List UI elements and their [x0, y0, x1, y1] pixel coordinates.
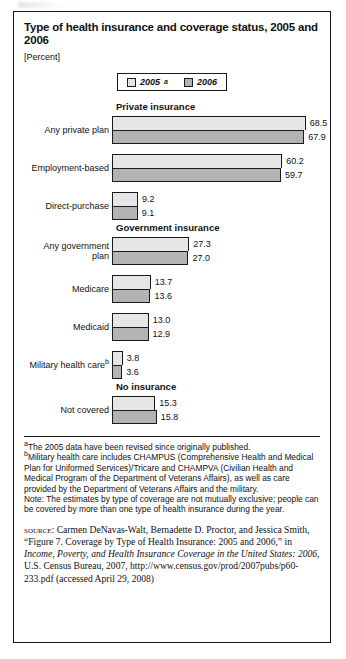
bar-pair: 68.567.9: [112, 116, 327, 144]
bar-pair: 13.012.9: [112, 313, 322, 341]
figure-title: Type of health insurance and coverage st…: [24, 21, 320, 47]
category-label-text: Any private plan: [44, 125, 109, 135]
category-label: Medicaid: [24, 322, 112, 333]
bar-2006: [112, 251, 188, 265]
bar-2005: [112, 116, 306, 130]
category-label-text: Employment-based: [31, 163, 109, 173]
legend-item-2005: 2005a: [127, 77, 168, 87]
bar-pair: 3.83.6: [112, 351, 322, 379]
bar-row: 15.8: [112, 410, 322, 424]
legend-swatch-light-icon: [127, 78, 136, 87]
bar-2006: [112, 327, 149, 341]
bar-2005: [112, 237, 189, 251]
general-note: Note: The estimates by type of coverage …: [24, 494, 320, 515]
bar-value-label: 3.8: [123, 353, 140, 363]
bar-value-label: 13.0: [149, 315, 171, 325]
bar-2006: [112, 206, 138, 220]
chart-section: Private insuranceAny private plan68.567.…: [24, 101, 322, 220]
legend-wrapper: 2005a 2006: [24, 73, 320, 91]
bar-2005: [112, 351, 123, 365]
bar-group: Employment-based60.259.7: [24, 154, 322, 182]
chart-legend: 2005a 2006: [117, 73, 227, 91]
bar-2006: [112, 410, 157, 424]
category-label: Any private plan: [24, 125, 112, 136]
bar-2005: [112, 192, 138, 206]
footnote-a: aThe 2005 data have been revised since o…: [24, 442, 320, 452]
legend-item-2006: 2006: [184, 77, 217, 87]
bar-pair: 27.327.0: [112, 237, 322, 265]
bar-2005: [112, 313, 149, 327]
bar-row: 13.7: [112, 275, 322, 289]
category-label-text: Medicare: [72, 284, 109, 294]
legend-label-2005: 2005: [140, 77, 160, 87]
source-keyword: source:: [24, 524, 54, 535]
figure-notes: aThe 2005 data have been revised since o…: [24, 436, 320, 515]
figure-unit-label: [Percent]: [24, 52, 320, 63]
bar-row: 68.5: [112, 116, 327, 130]
source-text-1: Carmen DeNavas-Walt, Bernadette D. Proct…: [24, 524, 309, 547]
section-title: Private insurance: [24, 101, 322, 112]
category-label-text: Direct-purchase: [45, 201, 109, 211]
bar-row: 9.1: [112, 206, 322, 220]
bar-row: 60.2: [112, 154, 322, 168]
category-label-text: Not covered: [60, 405, 109, 415]
bar-value-label: 68.5: [306, 118, 328, 128]
source-italic-title: Income, Poverty, and Health Insurance Co…: [24, 548, 317, 559]
bar-value-label: 15.8: [157, 412, 179, 422]
figure-source: source: Carmen DeNavas-Walt, Bernadette …: [24, 524, 320, 585]
bar-value-label: 27.0: [188, 253, 210, 263]
bar-pair: 15.315.8: [112, 396, 322, 424]
bar-value-label: 67.9: [304, 132, 326, 142]
bar-row: 12.9: [112, 327, 322, 341]
bar-group: Not covered15.315.8: [24, 396, 322, 424]
chart-section: No insuranceNot covered15.315.8: [24, 381, 322, 424]
footnote-b-text: Military health care includes CHAMPUS (C…: [24, 452, 313, 493]
section-title: Government insurance: [24, 222, 322, 233]
category-label-sup: b: [105, 358, 109, 365]
bar-row: 27.3: [112, 237, 322, 251]
bar-group: Direct-purchase9.29.1: [24, 192, 322, 220]
bar-value-label: 9.2: [138, 194, 155, 204]
bar-value-label: 12.9: [149, 329, 171, 339]
bar-row: 27.0: [112, 251, 322, 265]
bar-value-label: 13.6: [150, 291, 172, 301]
category-label: Any government plan: [24, 241, 112, 262]
bar-group: Medicare13.713.6: [24, 275, 322, 303]
bar-pair: 9.29.1: [112, 192, 322, 220]
bar-2005: [112, 154, 282, 168]
bar-row: 3.8: [112, 351, 322, 365]
legend-swatch-dark-icon: [184, 78, 193, 87]
category-label-text: Medicaid: [73, 322, 109, 332]
bar-value-label: 9.1: [138, 208, 155, 218]
bar-2006: [112, 365, 122, 379]
bar-value-label: 3.6: [122, 367, 139, 377]
bar-2006: [112, 130, 304, 144]
bar-group: Any government plan27.327.0: [24, 237, 322, 265]
bar-row: 13.0: [112, 313, 322, 327]
bar-row: 13.6: [112, 289, 322, 303]
bar-chart: Private insuranceAny private plan68.567.…: [24, 101, 322, 424]
bar-group: Military health careb3.83.6: [24, 351, 322, 379]
chart-section: Government insuranceAny government plan2…: [24, 222, 322, 379]
footnote-b: bMilitary health care includes CHAMPUS (…: [24, 452, 320, 494]
legend-label-2006: 2006: [197, 77, 217, 87]
category-label-text: Any government plan: [43, 241, 109, 262]
bar-2006: [112, 168, 281, 182]
footnote-a-text: The 2005 data have been revised since or…: [28, 442, 251, 452]
category-label: Employment-based: [24, 163, 112, 174]
bar-value-label: 15.3: [155, 398, 177, 408]
bar-pair: 13.713.6: [112, 275, 322, 303]
category-label: Medicare: [24, 284, 112, 295]
bar-value-label: 13.7: [151, 277, 173, 287]
bar-group: Any private plan68.567.9: [24, 116, 322, 144]
category-label-text: Military health care: [30, 360, 106, 370]
bar-2006: [112, 289, 150, 303]
bar-row: 67.9: [112, 130, 327, 144]
bar-value-label: 60.2: [282, 156, 304, 166]
bar-value-label: 59.7: [281, 170, 303, 180]
section-title: No insurance: [24, 381, 322, 392]
bar-row: 59.7: [112, 168, 322, 182]
bar-2005: [112, 396, 155, 410]
scan-artifact: [18, 2, 78, 8]
bar-row: 9.2: [112, 192, 322, 206]
